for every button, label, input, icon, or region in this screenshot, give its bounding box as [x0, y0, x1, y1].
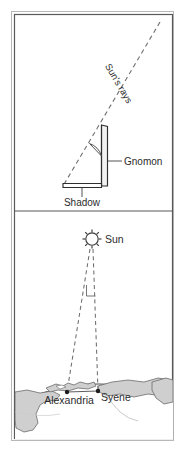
syene-label: Syene [101, 391, 131, 403]
frame-inner [15, 15, 173, 439]
alexandria-label: Alexandria [44, 394, 94, 406]
sun-icon [83, 230, 102, 249]
sun-label: Sun [105, 233, 124, 245]
gnomon-post [102, 125, 108, 186]
shadow-label: Shadow [64, 197, 101, 208]
gnomon-label: Gnomon [124, 156, 162, 167]
eratosthenes-diagram: Sun's rays Gnomon Shadow [0, 0, 188, 462]
shadow-slab [63, 184, 102, 188]
figure-container: Sun's rays Gnomon Shadow [0, 0, 188, 462]
city-dot-marker-syene [96, 389, 100, 393]
